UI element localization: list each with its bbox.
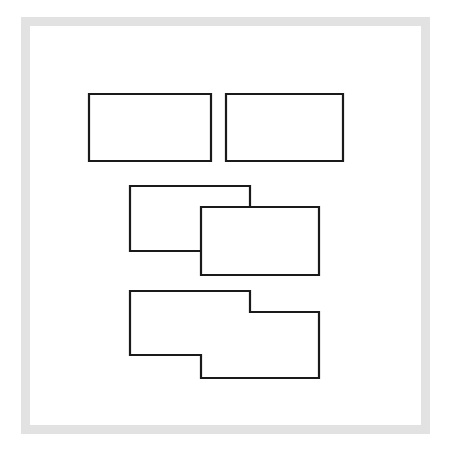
figure-page: Geometric shapes figure Line-drawing of … xyxy=(0,0,451,458)
rect-top-left xyxy=(89,94,211,161)
polygon-z-shape xyxy=(130,291,319,378)
shapes-canvas xyxy=(0,0,451,458)
rect-top-right xyxy=(226,94,343,161)
rect-middle-lower-right xyxy=(201,207,319,275)
